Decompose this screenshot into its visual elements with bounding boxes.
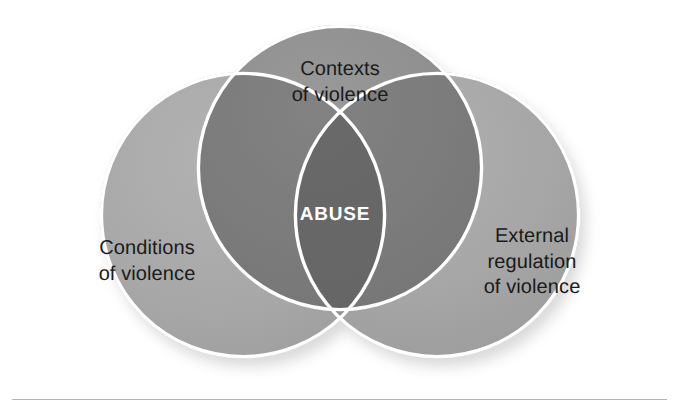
bottom-divider	[12, 399, 667, 400]
venn-diagram-canvas	[0, 0, 679, 416]
venn-diagram-figure: Contexts of violence Conditions of viole…	[0, 0, 679, 416]
